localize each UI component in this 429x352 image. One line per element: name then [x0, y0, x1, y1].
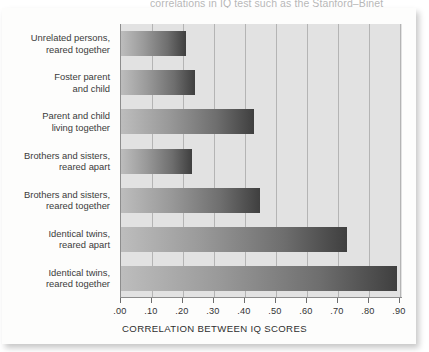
category-label: Identical twins, reared together [0, 267, 110, 290]
x-tick [399, 298, 400, 303]
x-tick [182, 298, 183, 303]
x-tick [368, 298, 369, 303]
plot-area [120, 24, 402, 298]
bar [121, 266, 397, 291]
x-axis-title: CORRELATION BETWEEN IQ SCORES [0, 323, 429, 334]
x-tick-label: .70 [322, 306, 352, 316]
bar [121, 227, 347, 252]
x-tick [244, 298, 245, 303]
x-tick [151, 298, 152, 303]
gridline [276, 24, 277, 298]
x-tick [306, 298, 307, 303]
x-tick-label: .20 [167, 306, 197, 316]
gridline [307, 24, 308, 298]
gridline [338, 24, 339, 298]
bar [121, 31, 186, 56]
gridline [400, 24, 401, 298]
x-tick [275, 298, 276, 303]
category-label: Identical twins, reared apart [0, 228, 110, 251]
x-tick-label: .90 [384, 306, 414, 316]
category-label: Unrelated persons, reared together [0, 32, 110, 55]
x-tick [120, 298, 121, 303]
x-tick-label: .60 [291, 306, 321, 316]
gridline [245, 24, 246, 298]
x-tick-label: .50 [260, 306, 290, 316]
bar [121, 70, 195, 95]
gridline [369, 24, 370, 298]
x-tick-label: .00 [105, 306, 135, 316]
bar [121, 149, 192, 174]
category-label: Brothers and sisters, reared apart [0, 150, 110, 173]
x-tick [337, 298, 338, 303]
bar [121, 188, 260, 213]
category-axis-labels: Unrelated persons, reared togetherFoster… [0, 24, 114, 298]
x-tick-label: .40 [229, 306, 259, 316]
category-label: Foster parent and child [0, 71, 110, 94]
x-tick-label: .10 [136, 306, 166, 316]
bar [121, 109, 254, 134]
x-tick [213, 298, 214, 303]
x-tick-label: .30 [198, 306, 228, 316]
figure-root: correlations in IQ test such as the Stan… [0, 0, 429, 352]
category-label: Parent and child living together [0, 110, 110, 133]
gridline [214, 24, 215, 298]
category-label: Brothers and sisters, reared together [0, 189, 110, 212]
x-tick-label: .80 [353, 306, 383, 316]
